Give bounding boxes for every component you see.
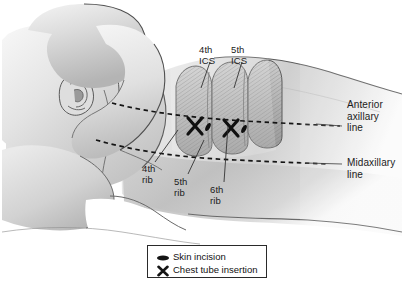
label-4th-rib-line2: rib [142, 174, 153, 185]
label-midaxillary-line: Midaxillaryline [347, 157, 395, 180]
skin-overlay [170, 51, 276, 158]
label-4th-rib-line1: 4th [142, 163, 156, 174]
label-5th-rib-line1: 5th [174, 176, 188, 187]
label-midaxillary-line1: Midaxillary [347, 157, 395, 168]
label-6th-rib: 6thrib [210, 184, 224, 206]
label-5th-ics-line1: 5th [231, 44, 245, 55]
rib-cage [170, 51, 282, 158]
label-anterior-axillary-line: Anterioraxillaryline [347, 99, 383, 134]
label-anterior-axillary-line2: axillary [347, 111, 379, 122]
legend-item-chest-tube-insertion: Chest tube insertion [156, 262, 258, 276]
label-6th-rib-line1: 6th [210, 184, 224, 195]
legend-item-skin-incision: Skin incision [156, 249, 226, 263]
label-midaxillary-line2: line [347, 169, 363, 180]
label-5th-rib: 5thrib [174, 176, 188, 198]
label-4th-ics: 4thICS [199, 44, 215, 66]
label-6th-rib-line2: rib [210, 195, 221, 206]
label-4th-ics-line2: ICS [199, 55, 215, 66]
label-5th-ics: 5thICS [231, 44, 247, 66]
ear-concha [74, 89, 83, 101]
label-4th-ics-line1: 4th [199, 44, 213, 55]
chest-tube-insertion-figure: 4thICS 5thICS 4thrib 5thrib 6thrib Anter… [0, 0, 402, 289]
x-mark-icon [156, 263, 170, 275]
label-5th-ics-line2: ICS [231, 55, 247, 66]
label-4th-rib: 4thrib [142, 163, 156, 185]
legend-label-chest-tube-insertion: Chest tube insertion [173, 264, 258, 275]
label-anterior-axillary-line1: Anterior [347, 99, 383, 110]
legend: Skin incision Chest tube insertion [147, 245, 267, 278]
ellipse-icon [156, 250, 170, 262]
label-5th-rib-line2: rib [174, 187, 185, 198]
label-anterior-axillary-line3: line [347, 122, 363, 133]
legend-label-skin-incision: Skin incision [173, 251, 226, 262]
right-fade-overlay [300, 0, 402, 289]
